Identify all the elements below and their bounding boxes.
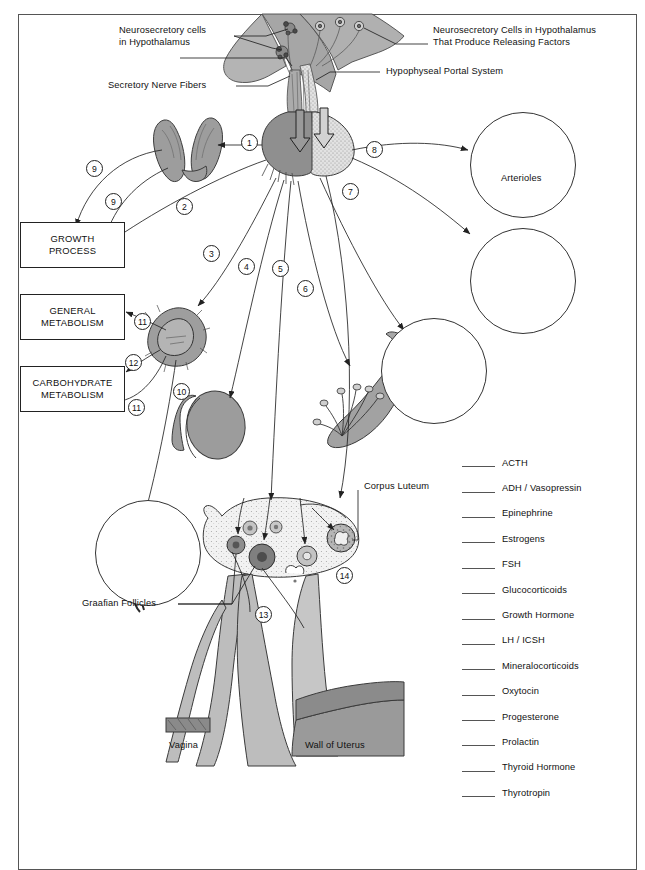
- legend-row: Oxytocin: [462, 679, 637, 704]
- pathway-number-4: 4: [238, 258, 255, 275]
- legend-label: Prolactin: [502, 737, 539, 747]
- pathway-number-7: 7: [342, 183, 359, 200]
- legend-label: Thyroid Hormone: [502, 762, 575, 772]
- pathway-number-3: 3: [203, 245, 220, 262]
- legend-blank-line[interactable]: [462, 737, 495, 746]
- pathway-number-5: 5: [272, 260, 289, 277]
- legend-label: Oxytocin: [502, 686, 539, 696]
- pathway-number-9a: 9: [86, 160, 103, 177]
- nephron-inset-circle-right: [470, 228, 576, 334]
- legend-label: ACTH: [502, 458, 528, 468]
- legend-label: Thyrotropin: [502, 788, 550, 798]
- pathway-number-8: 8: [366, 141, 383, 158]
- legend-row: Estrogens: [462, 526, 637, 551]
- legend-blank-line[interactable]: [462, 509, 495, 518]
- callout-neurosecretory-cells-hypothalamus: Neurosecretory cells in Hypothalamus: [119, 25, 239, 48]
- legend-label: Glucocorticoids: [502, 585, 567, 595]
- legend-label: Mineralocorticoids: [502, 661, 579, 671]
- legend-label: FSH: [502, 559, 521, 569]
- callout-graafian-follicles: Graafian Follicles: [82, 598, 156, 610]
- pathway-number-14: 14: [336, 567, 353, 584]
- legend-label: Epinephrine: [502, 508, 553, 518]
- arterioles-inset-circle: [470, 112, 576, 218]
- legend-row: Thyroid Hormone: [462, 755, 637, 780]
- callout-arterioles: Arterioles: [501, 173, 541, 185]
- legend-blank-line[interactable]: [462, 458, 495, 467]
- process-box-growth-process: GROWTH PROCESS: [20, 222, 125, 268]
- callout-corpus-luteum: Corpus Luteum: [364, 481, 429, 493]
- pathway-number-12: 12: [125, 354, 142, 371]
- legend-row: Prolactin: [462, 729, 637, 754]
- pathway-number-11a: 11: [134, 313, 151, 330]
- pathway-number-13: 13: [255, 606, 272, 623]
- callout-secretory-nerve-fibers: Secretory Nerve Fibers: [108, 80, 206, 92]
- legend-blank-line[interactable]: [462, 788, 495, 797]
- legend-blank-line[interactable]: [462, 636, 495, 645]
- callout-wall-of-uterus: Wall of Uterus: [305, 740, 365, 752]
- legend-label: LH / ICSH: [502, 635, 545, 645]
- legend-row: Epinephrine: [462, 501, 637, 526]
- general-metabolism-line1: GENERAL: [41, 305, 104, 317]
- general-metabolism-line2: METABOLISM: [41, 317, 104, 329]
- legend-label: ADH / Vasopressin: [502, 483, 582, 493]
- legend-blank-line[interactable]: [462, 763, 495, 772]
- legend-row: FSH: [462, 552, 637, 577]
- process-box-carbohydrate-metabolism: CARBOHYDRATE METABOLISM: [20, 366, 125, 412]
- legend-blank-line[interactable]: [462, 712, 495, 721]
- pathway-number-9b: 9: [105, 193, 122, 210]
- pathway-number-10: 10: [173, 383, 190, 400]
- callout-vagina: Vagina: [169, 740, 198, 752]
- legend-row: Thyrotropin: [462, 780, 637, 805]
- legend-label: Growth Hormone: [502, 610, 574, 620]
- legend-row: ADH / Vasopressin: [462, 475, 637, 500]
- hormone-legend: ACTH ADH / Vasopressin Epinephrine Estro…: [462, 450, 637, 805]
- legend-row: Mineralocorticoids: [462, 653, 637, 678]
- growth-process-line2: PROCESS: [49, 245, 96, 257]
- legend-blank-line[interactable]: [462, 484, 495, 493]
- legend-blank-line[interactable]: [462, 661, 495, 670]
- pathway-number-2: 2: [176, 198, 193, 215]
- pathway-number-11b: 11: [128, 399, 145, 416]
- legend-row: Glucocorticoids: [462, 577, 637, 602]
- legend-blank-line[interactable]: [462, 560, 495, 569]
- legend-blank-line[interactable]: [462, 585, 495, 594]
- legend-blank-line[interactable]: [462, 611, 495, 620]
- legend-blank-line[interactable]: [462, 687, 495, 696]
- legend-blank-line[interactable]: [462, 534, 495, 543]
- legend-row: LH / ICSH: [462, 628, 637, 653]
- growth-process-line1: GROWTH: [49, 233, 96, 245]
- legend-row: ACTH: [462, 450, 637, 475]
- legend-label: Progesterone: [502, 712, 559, 722]
- pathway-number-1: 1: [241, 134, 258, 151]
- pathway-number-6: 6: [297, 280, 314, 297]
- carbohydrate-metabolism-line2: METABOLISM: [33, 389, 113, 401]
- legend-row: Progesterone: [462, 704, 637, 729]
- uterus-inset-circle: [381, 318, 487, 424]
- legend-label: Estrogens: [502, 534, 545, 544]
- callout-hypophyseal-portal-system: Hypophyseal Portal System: [386, 66, 503, 78]
- carbohydrate-metabolism-line1: CARBOHYDRATE: [33, 377, 113, 389]
- legend-row: Growth Hormone: [462, 602, 637, 627]
- nephron-inset-circle-left: [95, 500, 201, 606]
- callout-neurosecretory-cells-releasing-factors: Neurosecretory Cells in Hypothalamus Tha…: [433, 25, 638, 48]
- process-box-general-metabolism: GENERAL METABOLISM: [20, 294, 125, 340]
